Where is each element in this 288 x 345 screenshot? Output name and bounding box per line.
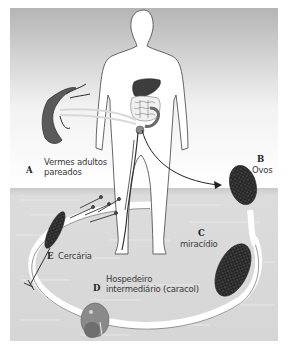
stage-b-letter: B	[257, 154, 264, 164]
stage-a-label: A	[26, 165, 32, 175]
stage-b-label: B	[257, 154, 264, 164]
stage-d-line2: intermediário (caracol)	[106, 284, 199, 294]
lifecycle-diagram: A Vermes adultos pareados B Ovos C mirac…	[0, 0, 288, 345]
stage-c-letter: C	[198, 228, 205, 238]
stage-e-letter: E	[47, 251, 53, 261]
stage-d-line1: Hospedeiro	[106, 274, 199, 284]
stage-a-line1: Vermes adultos	[44, 157, 107, 167]
stage-e-text: Cercária	[58, 251, 92, 261]
stage-b-text: Ovos	[252, 165, 273, 175]
stage-d-text: Hospedeiro intermediário (caracol)	[106, 274, 199, 294]
stage-d-label: D	[93, 283, 100, 293]
stage-c-line1: miracídio	[180, 239, 218, 249]
stage-a-text: Vermes adultos pareados	[44, 157, 107, 177]
stage-e-label: E	[47, 251, 53, 261]
stage-b-line1: Ovos	[252, 165, 273, 175]
stage-a-line2: pareados	[44, 167, 107, 177]
stage-a-letter: A	[26, 165, 32, 175]
stage-d-letter: D	[93, 283, 100, 293]
stage-c-text: miracídio	[180, 239, 218, 249]
stage-c-label: C	[198, 228, 205, 238]
stage-e-line1: Cercária	[58, 251, 92, 261]
